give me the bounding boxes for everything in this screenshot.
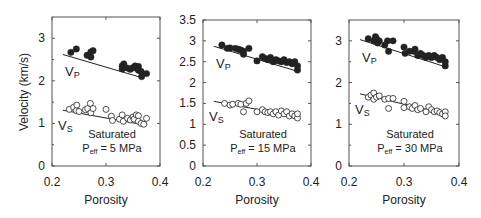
x-tick-label: 0.3 — [396, 175, 413, 189]
x-axis-label: Porosity — [235, 193, 278, 207]
vs-point — [103, 106, 109, 112]
x-tick-label: 0.2 — [341, 175, 358, 189]
vp-point — [246, 45, 252, 51]
vs-point — [238, 101, 244, 107]
vp-label-subscript: P — [74, 70, 80, 80]
vs-label: VS — [209, 109, 224, 125]
pressure-label: Peff = 15 MPa — [230, 142, 296, 155]
condition-label: Saturated — [88, 128, 136, 140]
vs-point — [401, 98, 407, 104]
vp-point — [90, 47, 96, 53]
vs-point — [418, 105, 424, 111]
vp-point — [412, 46, 418, 52]
vp-point — [143, 70, 149, 76]
condition-label: Saturated — [239, 128, 287, 140]
y-tick-label: 0 — [38, 159, 45, 173]
y-tick-label: 1.5 — [179, 96, 196, 110]
vs-point — [135, 113, 141, 119]
vs-point — [295, 111, 301, 117]
y-tick-label: 3 — [189, 34, 196, 48]
y-tick-label: 0 — [335, 159, 342, 173]
vp-label-subscript: P — [225, 62, 231, 72]
y-tick-label: 2 — [189, 76, 196, 90]
y-tick-label: 1 — [335, 117, 342, 131]
x-tick-label: 0.3 — [249, 175, 266, 189]
vp-point — [73, 46, 79, 52]
vp-label-subscript: P — [371, 56, 377, 66]
x-tick-label: 0.4 — [303, 175, 320, 189]
x-tick-label: 0.4 — [451, 175, 468, 189]
vs-label-subscript: S — [218, 115, 224, 125]
vs-point — [74, 102, 80, 108]
y-tick-label: 3 — [38, 31, 45, 45]
pressure-subscript: eff — [90, 148, 98, 155]
vp-point — [254, 58, 260, 64]
vs-point — [119, 112, 125, 118]
vs-point — [390, 95, 396, 101]
vp-point — [442, 63, 448, 69]
y-axis-label: Velocity (km/s) — [17, 53, 31, 131]
vs-point — [401, 105, 407, 111]
pressure-label: Peff = 5 MPa — [82, 142, 142, 155]
vp-label: VP — [362, 50, 377, 66]
y-tick-label: 3.5 — [179, 13, 196, 27]
vs-label-subscript: S — [67, 124, 73, 134]
pressure-value: = 30 MPa — [392, 142, 443, 154]
pressure-subscript: eff — [385, 148, 393, 155]
vs-label-subscript: S — [364, 108, 370, 118]
pressure-label: Peff = 30 MPa — [377, 142, 443, 155]
vs-point — [442, 113, 448, 119]
y-tick-label: 1 — [189, 117, 196, 131]
pressure-value: = 15 MPa — [245, 142, 296, 154]
vs-point — [230, 101, 236, 107]
vp-point — [390, 38, 396, 44]
vp-point — [376, 38, 382, 44]
x-axis-label: Porosity — [84, 193, 127, 207]
x-axis-label: Porosity — [382, 193, 425, 207]
pressure-value: = 5 MPa — [97, 142, 142, 154]
condition-label: Saturated — [386, 128, 434, 140]
vp-point — [385, 48, 391, 54]
x-tick-label: 0.4 — [152, 175, 169, 189]
y-tick-label: 2 — [335, 76, 342, 90]
x-tick-label: 0.2 — [195, 175, 212, 189]
vs-label: VS — [58, 118, 73, 134]
vs-point — [246, 98, 252, 104]
vs-point — [386, 105, 392, 111]
y-tick-label: 3 — [335, 34, 342, 48]
y-tick-label: 2.5 — [179, 55, 196, 69]
x-tick-label: 0.2 — [44, 175, 61, 189]
vp-label: VP — [65, 64, 80, 80]
figure: Velocity (km/s) 0.20.30.40123PorosityVPV… — [0, 0, 481, 218]
vs-label: VS — [355, 102, 370, 118]
panel-peff-30mpa: 0.20.30.40123PorosityVPVSSaturatedPeff =… — [335, 20, 467, 207]
vp-label: VP — [216, 56, 231, 72]
vs-point — [90, 106, 96, 112]
vs-point — [144, 115, 150, 121]
x-tick-label: 0.3 — [98, 175, 115, 189]
y-tick-label: 0.5 — [179, 138, 196, 152]
vp-point — [294, 67, 300, 73]
vs-point — [76, 109, 82, 115]
panel-peff-5mpa: 0.20.30.40123PorosityVPVSSaturatedPeff =… — [38, 17, 168, 207]
y-tick-label: 0 — [189, 159, 196, 173]
vp-point — [401, 44, 407, 50]
vs-point — [241, 109, 247, 115]
pressure-subscript: eff — [238, 148, 246, 155]
vs-point — [141, 121, 147, 127]
y-tick-label: 2 — [38, 74, 45, 88]
vs-point — [109, 117, 115, 123]
y-tick-label: 1 — [38, 116, 45, 130]
panel-peff-15mpa: 0.20.30.400.511.522.533.5PorosityVPVSSat… — [179, 13, 319, 207]
vs-point — [376, 93, 382, 99]
